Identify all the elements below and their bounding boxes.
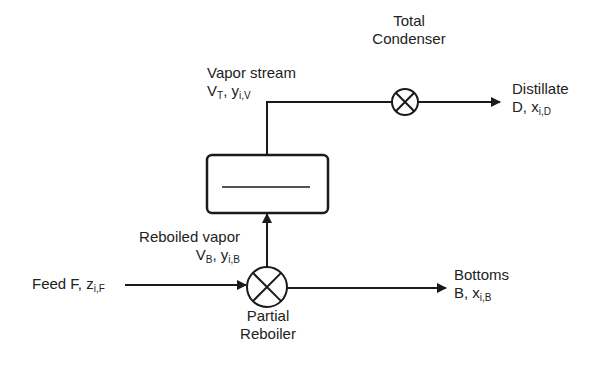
condenser-label-line2: Condenser [370, 30, 448, 48]
condenser-label: Total Condenser [370, 12, 448, 48]
total-condenser-icon [392, 89, 418, 115]
feed-label: Feed F, zi,F [32, 275, 105, 293]
distillate-title: Distillate [512, 80, 569, 98]
vapor-stream-label: Vapor stream VT, yi,V [207, 64, 296, 100]
vapor-stream-title: Vapor stream [207, 64, 296, 82]
bottoms-label: Bottoms B, xi,B [454, 266, 509, 302]
distillate-label: Distillate D, xi,D [512, 80, 569, 116]
vapor-stream-vars: VT, yi,V [207, 82, 296, 100]
bottoms-title: Bottoms [454, 266, 509, 284]
reboiled-vapor-vars: VB, yi,B [118, 246, 240, 264]
bottoms-vars: B, xi,B [454, 284, 509, 302]
vapor-stream-line [267, 102, 392, 155]
reboiler-label: Partial Reboiler [232, 307, 304, 343]
partial-reboiler-icon [247, 267, 287, 307]
reboiled-vapor-label: Reboiled vapor VB, yi,B [118, 228, 240, 264]
column-box [207, 155, 328, 213]
reboiled-vapor-title: Reboiled vapor [118, 228, 240, 246]
distillate-vars: D, xi,D [512, 98, 569, 116]
process-diagram [0, 0, 614, 366]
reboiler-label-line1: Partial [232, 307, 304, 325]
condenser-label-line1: Total [370, 12, 448, 30]
reboiler-label-line2: Reboiler [232, 325, 304, 343]
